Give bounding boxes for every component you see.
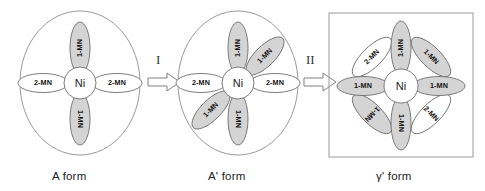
petal-label: 2-MN: [108, 78, 126, 87]
transition-numeral-1: I: [156, 52, 160, 68]
petal-right: 1-MN: [413, 77, 465, 96]
center-node: Ni: [384, 69, 418, 103]
petal-top: 1-MN: [70, 22, 90, 74]
petal-label: 2-MN: [34, 78, 52, 87]
petal-label: 1-MN: [234, 110, 243, 128]
petal-label: 1-MN: [233, 39, 242, 57]
petal-label: 1-MN: [430, 81, 448, 90]
petal-right: 2-MN: [250, 74, 300, 93]
petal-label: 1-MN: [397, 114, 406, 132]
petal-label: 1-MN: [75, 39, 84, 57]
caption-gamma-prime-form: γ' form: [376, 170, 412, 182]
petal-left: 2-MN: [18, 74, 68, 93]
a-form-svg: 1-MN 1-MN 2-MN 2-MN Ni: [10, 6, 150, 161]
structure-a-prime-form: 1-MN 1-MN 1-MN 1-MN 2-MN: [168, 6, 308, 161]
center-label: Ni: [396, 80, 406, 92]
petal-label: 1-MN: [76, 110, 85, 128]
petal-bottom: 1-MN: [70, 93, 90, 145]
center-node: Ni: [222, 67, 254, 99]
transition-numeral-2: II: [306, 52, 315, 68]
caption-a-form: A form: [52, 170, 86, 182]
petal-bottom: 1-MN: [228, 93, 248, 145]
petal-bottom: 1-MN: [391, 96, 411, 150]
a-prime-form-svg: 1-MN 1-MN 1-MN 1-MN 2-MN: [168, 6, 308, 161]
center-node: Ni: [64, 67, 96, 99]
petal-left: 1-MN: [337, 77, 389, 96]
caption-a-prime-form: A' form: [208, 170, 245, 182]
structure-a-form: 1-MN 1-MN 2-MN 2-MN Ni: [10, 6, 150, 161]
petal-left: 2-MN: [176, 74, 226, 93]
petal-right: 2-MN: [92, 74, 142, 93]
petal-top: 1-MN: [391, 21, 411, 75]
center-label: Ni: [75, 77, 85, 89]
structure-gamma-prime-form: 2-MN 1-MN 1-MN 2-MN 1-MN: [328, 12, 476, 160]
petal-label: 1-MN: [354, 81, 372, 90]
petal-label: 2-MN: [192, 78, 210, 87]
petal-top: 1-MN: [228, 22, 248, 74]
petal-label: 2-MN: [266, 78, 284, 87]
petal-label: 1-MN: [396, 39, 405, 57]
diagram-canvas: 1-MN 1-MN 2-MN 2-MN Ni A fo: [0, 0, 485, 191]
center-label: Ni: [233, 77, 243, 89]
gamma-prime-form-svg: 2-MN 1-MN 1-MN 2-MN 1-MN: [328, 12, 476, 160]
